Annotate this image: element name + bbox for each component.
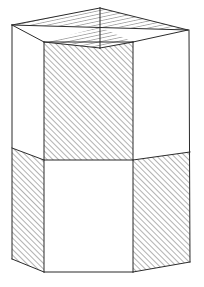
- face-left-lower: [12, 148, 44, 272]
- faces-layer: [12, 25, 190, 272]
- face-left-upper: [12, 25, 44, 160]
- face-right-upper: [133, 30, 190, 160]
- face-right-lower: [133, 152, 190, 272]
- figure-canvas: [0, 0, 204, 287]
- face-front-lower: [44, 160, 133, 272]
- hexagonal-prism-drawing: [0, 0, 204, 287]
- face-front-upper: [44, 42, 133, 160]
